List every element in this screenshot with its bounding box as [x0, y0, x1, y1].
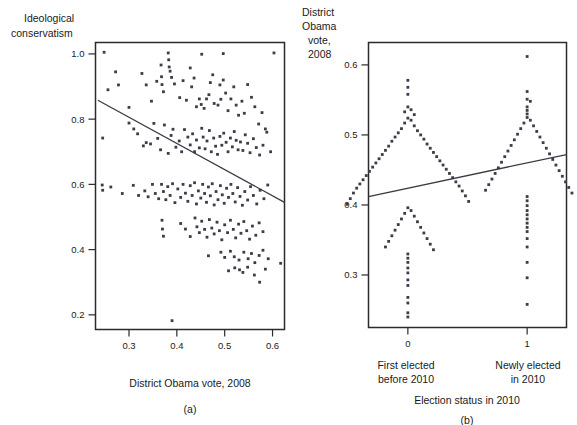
data-point — [234, 236, 237, 239]
data-point — [567, 186, 570, 189]
data-point — [238, 268, 241, 271]
data-point — [352, 192, 355, 195]
data-point — [258, 154, 261, 157]
data-point — [246, 266, 249, 269]
data-point — [171, 182, 174, 185]
data-point — [203, 107, 206, 110]
data-point — [262, 230, 265, 233]
data-point — [220, 238, 223, 241]
data-point — [241, 204, 244, 207]
data-point — [245, 229, 248, 232]
data-point — [237, 223, 240, 226]
data-point — [191, 194, 194, 197]
statistical-figure: Ideological conservatism 1.00.80.60.40.2… — [0, 0, 577, 425]
data-point — [160, 75, 163, 78]
data-point — [406, 106, 409, 109]
data-point — [413, 124, 416, 127]
data-point — [397, 131, 400, 134]
data-point — [532, 124, 535, 127]
panel-a-caption: (a) — [184, 403, 197, 415]
panel-b-ylabel-line1: District — [302, 6, 334, 18]
data-point — [132, 184, 135, 187]
data-point — [235, 139, 238, 142]
data-point — [365, 174, 368, 177]
data-point — [200, 53, 203, 56]
data-point — [251, 225, 254, 228]
data-point — [189, 144, 192, 147]
data-point — [526, 106, 529, 109]
data-point — [241, 149, 244, 152]
panel-a: Ideological conservatism 1.00.80.60.40.2… — [11, 12, 285, 415]
data-point — [167, 152, 170, 155]
data-point — [413, 113, 416, 116]
data-point — [160, 64, 163, 67]
data-point — [121, 192, 124, 195]
data-point — [426, 143, 429, 146]
data-point — [445, 168, 448, 171]
panel-b-strip-points — [346, 55, 574, 318]
data-point — [227, 196, 230, 199]
data-point — [422, 138, 425, 141]
data-point — [180, 150, 183, 153]
data-point — [406, 206, 409, 209]
panel-b: District Obama vote, 2008 0.60.50.40.3 0… — [302, 6, 573, 425]
data-point — [529, 119, 532, 122]
data-point — [262, 144, 265, 147]
data-point — [211, 73, 214, 76]
data-point — [149, 143, 152, 146]
data-point — [419, 134, 422, 137]
data-point — [223, 202, 226, 205]
data-point — [346, 203, 349, 206]
panel-a-xlabel: District Obama vote, 2008 — [129, 377, 251, 389]
data-point — [403, 122, 406, 125]
data-point — [258, 254, 261, 257]
data-point — [195, 203, 198, 206]
data-point — [526, 195, 529, 198]
panel-a-ylabel-line1: Ideological — [24, 12, 74, 24]
data-point — [199, 197, 202, 200]
data-point — [208, 129, 211, 132]
data-point — [232, 228, 235, 231]
data-point — [141, 72, 144, 75]
panel-b-ylabel-line4: 2008 — [308, 48, 332, 60]
data-point — [507, 150, 510, 153]
data-point — [155, 80, 158, 83]
data-point — [526, 237, 529, 240]
data-point — [202, 136, 205, 139]
data-point — [170, 76, 173, 79]
data-point — [258, 221, 261, 224]
panel-b-x-tick-label: 1 — [524, 338, 529, 349]
data-point — [223, 256, 226, 259]
data-point — [179, 196, 182, 199]
data-point — [255, 203, 258, 206]
data-point — [200, 103, 203, 106]
data-point — [164, 198, 167, 201]
data-point — [241, 100, 244, 103]
data-point — [362, 178, 365, 181]
panel-b-y-tick-label: 0.5 — [344, 129, 357, 140]
data-point — [226, 231, 229, 234]
data-point — [189, 67, 192, 70]
data-point — [406, 79, 409, 82]
data-point — [429, 147, 432, 150]
data-point — [217, 104, 220, 107]
data-point — [253, 105, 256, 108]
data-point — [410, 119, 413, 122]
data-point — [390, 140, 393, 143]
data-point — [384, 246, 387, 249]
data-point — [186, 200, 189, 203]
data-point — [114, 70, 117, 73]
data-point — [526, 213, 529, 216]
data-point — [173, 83, 176, 86]
data-point — [209, 81, 212, 84]
data-point — [265, 131, 268, 134]
data-point — [561, 175, 564, 178]
data-point — [419, 226, 422, 229]
data-point — [426, 237, 429, 240]
data-point — [157, 197, 160, 200]
data-point — [207, 254, 210, 257]
data-point — [184, 228, 187, 231]
data-point — [193, 77, 196, 80]
data-point — [355, 187, 358, 190]
data-point — [237, 148, 240, 151]
